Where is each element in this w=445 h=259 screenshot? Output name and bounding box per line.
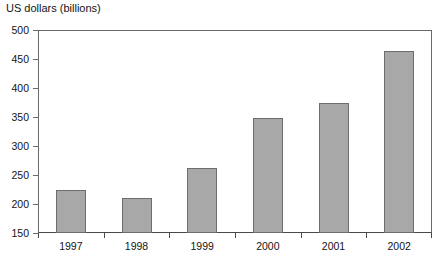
x-axis-tick-label: 2001 [301,239,367,253]
x-axis-tick-mark [235,233,236,238]
y-axis-tick-label: 250 [11,168,29,182]
bar-chart-figure: US dollars (billions) 150200250300350400… [0,0,445,259]
x-axis-tick-label: 1997 [38,239,104,253]
y-axis-tick-label: 300 [11,139,29,153]
plot-area [38,30,432,233]
y-axis-tick-mark [33,175,38,176]
y-axis-tick-label: 350 [11,110,29,124]
x-axis-tick-mark [366,233,367,238]
x-axis-tick-mark [301,233,302,238]
bar-1998 [122,198,152,233]
y-axis-tick-label: 500 [11,23,29,37]
x-axis-tick-label: 1999 [169,239,235,253]
x-axis-tick-label: 2000 [235,239,301,253]
x-axis-tick-mark [431,233,432,238]
bar-1997 [56,190,86,234]
x-axis-tick-label: 2002 [366,239,432,253]
y-axis-tick-mark [33,146,38,147]
bar-2002 [384,51,414,233]
y-axis-tick-label: 200 [11,197,29,211]
y-axis-tick-label: 450 [11,52,29,66]
bar-1999 [187,168,217,233]
x-axis-tick-mark [169,233,170,238]
x-axis-tick-mark [38,233,39,238]
y-axis-tick-mark [33,204,38,205]
y-axis-tick-mark [33,88,38,89]
chart-axis-title: US dollars (billions) [6,2,101,15]
y-axis-tick-label: 150 [11,226,29,240]
x-axis-tick-mark [104,233,105,238]
bar-2000 [253,118,283,233]
y-axis-tick-mark [33,117,38,118]
y-axis-tick-label: 400 [11,81,29,95]
x-axis-tick-label: 1998 [104,239,170,253]
y-axis-tick-mark [33,30,38,31]
bar-2001 [319,103,349,234]
y-axis-tick-mark [33,59,38,60]
